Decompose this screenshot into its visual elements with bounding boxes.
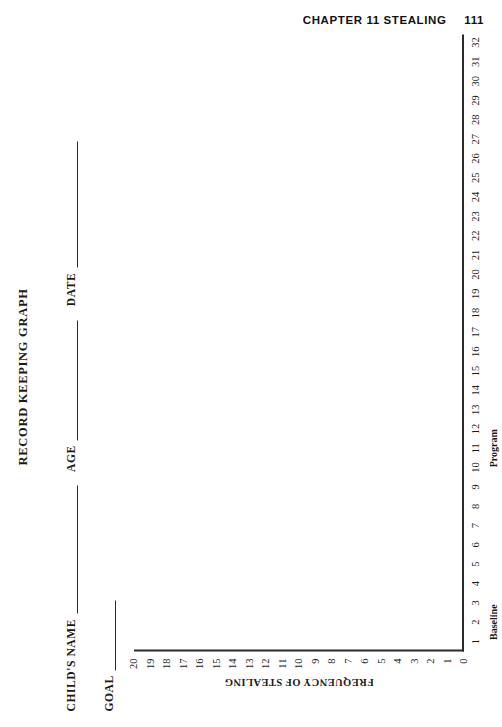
y-tick-label: 12 [261,658,272,669]
y-tick-label: 0 [459,658,470,663]
x-tick-label: 7 [471,522,482,527]
y-tick-label: 5 [376,658,387,663]
x-tick-label: 31 [471,56,482,67]
x-tick-label: 16 [471,346,482,357]
x-tick-label: 28 [471,114,482,125]
date-label: DATE [66,267,78,320]
x-tick-label: 14 [471,385,482,396]
form-title: RECORD KEEPING GRAPH [16,288,31,465]
x-tick-label: 29 [471,95,482,106]
age-input[interactable] [68,320,78,440]
goal-input[interactable] [106,600,116,670]
x-axis-line [462,34,464,651]
y-tick-label: 7 [343,658,354,663]
y-tick-label: 18 [162,658,173,669]
y-tick-label: 16 [195,658,206,669]
goal-label: GOAL [104,670,116,711]
x-tick-label: 15 [471,365,482,376]
x-tick-label: 3 [471,600,482,605]
x-tick-label: 23 [471,211,482,222]
x-tick-label: 21 [471,249,482,260]
x-tick-label: 2 [471,619,482,624]
chart-plot-area: FREQUENCY OF STEALING 012345678910111213… [134,34,464,651]
x-tick-label: 22 [471,230,482,241]
x-tick-label: 8 [471,503,482,508]
x-tick-label: 10 [471,462,482,473]
child-name-label: CHILD'S NAME [66,613,78,711]
y-tick-label: 19 [145,658,156,669]
x-tick-label: 11 [471,443,482,453]
child-name-input[interactable] [68,485,78,613]
y-tick-label: 20 [129,658,140,669]
x-tick-label: 19 [471,288,482,299]
phase-label-baseline: Baseline [488,604,499,640]
x-tick-label: 4 [471,580,482,585]
y-tick-label: 4 [393,658,404,663]
y-tick-label: 10 [294,658,305,669]
x-tick-label: 32 [471,37,482,48]
record-keeping-form: RECORD KEEPING GRAPH CHILD'S NAME AGE DA… [0,0,502,727]
age-label: AGE [66,440,78,486]
y-tick-label: 1 [442,658,453,663]
x-tick-label: 13 [471,404,482,415]
x-tick-label: 18 [471,307,482,318]
y-tick-label: 2 [426,658,437,663]
x-tick-label: 9 [471,484,482,489]
x-tick-label: 30 [471,75,482,86]
x-tick-label: 5 [471,561,482,566]
x-tick-label: 1 [471,638,482,643]
y-tick-label: 14 [228,658,239,669]
y-tick-label: 9 [310,658,321,663]
y-axis-line [134,649,464,651]
y-tick-label: 15 [211,658,222,669]
field-row-identity: CHILD'S NAME AGE DATE [66,141,78,711]
x-tick-label: 12 [471,423,482,434]
field-row-goal: GOAL [104,600,116,711]
date-input[interactable] [68,141,78,267]
y-tick-label: 11 [277,658,288,668]
y-tick-label: 8 [327,658,338,663]
y-tick-label: 6 [360,658,371,663]
x-tick-label: 27 [471,133,482,144]
y-tick-label: 17 [178,658,189,669]
y-tick-label: 13 [244,658,255,669]
x-tick-label: 24 [471,191,482,202]
x-tick-label: 20 [471,269,482,280]
x-tick-label: 17 [471,327,482,338]
y-axis-title: FREQUENCY OF STEALING [224,676,373,687]
x-tick-label: 25 [471,172,482,183]
y-tick-label: 3 [409,658,420,663]
x-tick-label: 6 [471,542,482,547]
phase-label-program: Program [488,429,499,467]
x-tick-label: 26 [471,153,482,164]
